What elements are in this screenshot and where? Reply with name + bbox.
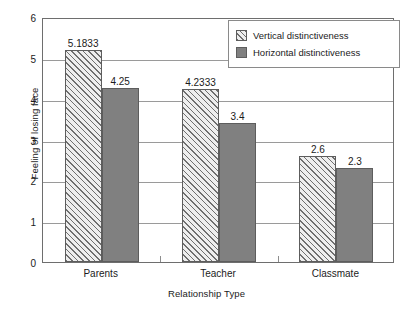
bar-chart-figure: Feeling of losing face 6543210 5.18334.2… bbox=[0, 0, 413, 309]
x-axis-category-label: Teacher bbox=[200, 268, 236, 279]
bar bbox=[336, 168, 373, 262]
y-axis-tick: 0 bbox=[20, 258, 36, 269]
bar bbox=[299, 156, 336, 262]
y-axis-tick: 4 bbox=[20, 94, 36, 105]
bar-value-label: 5.1833 bbox=[68, 38, 99, 49]
legend-item-horizontal: Horizontal distinctiveness bbox=[236, 44, 393, 61]
x-axis-tick bbox=[278, 256, 279, 262]
y-axis-tick-labels: 6543210 bbox=[16, 0, 36, 309]
y-axis-tick: 6 bbox=[20, 13, 36, 24]
bar-value-label: 4.25 bbox=[110, 76, 129, 87]
bar-value-label: 2.3 bbox=[348, 156, 362, 167]
x-axis-category-label: Classmate bbox=[312, 268, 359, 279]
y-axis-tick: 5 bbox=[20, 53, 36, 64]
legend-label: Vertical distinctiveness bbox=[253, 30, 349, 41]
bar bbox=[219, 123, 256, 262]
y-axis-tick: 3 bbox=[20, 135, 36, 146]
bar-value-label: 3.4 bbox=[231, 111, 245, 122]
x-axis-title: Relationship Type bbox=[0, 288, 413, 299]
legend-item-vertical: Vertical distinctiveness bbox=[236, 27, 393, 44]
x-axis-tick bbox=[160, 256, 161, 262]
y-axis-tick: 1 bbox=[20, 217, 36, 228]
bar bbox=[102, 88, 139, 262]
bar bbox=[182, 89, 219, 262]
bar bbox=[65, 50, 102, 262]
legend-swatch-solid-icon bbox=[236, 47, 247, 58]
bar-value-label: 2.6 bbox=[311, 144, 325, 155]
chart-legend: Vertical distinctiveness Horizontal dist… bbox=[228, 20, 400, 68]
legend-swatch-hatched-icon bbox=[236, 30, 247, 41]
legend-label: Horizontal distinctiveness bbox=[253, 47, 360, 58]
x-axis-category-label: Parents bbox=[83, 268, 117, 279]
y-axis-tick: 2 bbox=[20, 176, 36, 187]
bar-value-label: 4.2333 bbox=[185, 77, 216, 88]
